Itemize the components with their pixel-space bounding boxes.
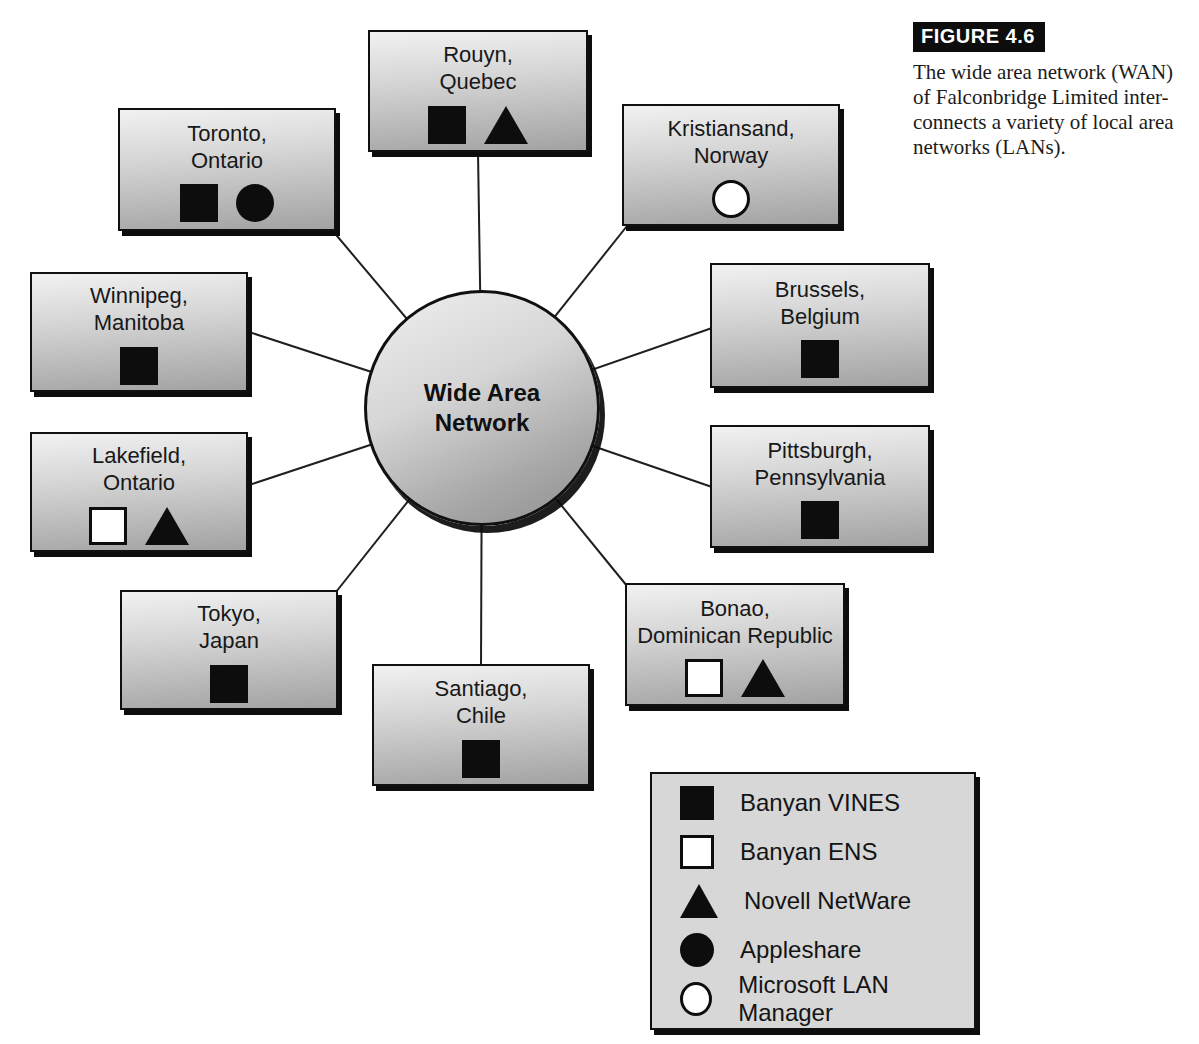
wan-hub-label: Wide Area Network bbox=[424, 378, 540, 438]
legend-item-banyan-ens: Banyan ENS bbox=[680, 833, 974, 871]
lan-node-winnipeg: Winnipeg, Manitoba bbox=[30, 272, 248, 392]
lan-node-tokyo: Tokyo, Japan bbox=[120, 590, 338, 710]
lan-node-label: Bonao, Dominican Republic bbox=[637, 596, 833, 650]
lan-node-santiago: Santiago, Chile bbox=[372, 664, 590, 786]
novell-netware-icon bbox=[741, 659, 785, 697]
lan-node-label: Lakefield, Ontario bbox=[92, 443, 186, 497]
lan-node-symbols bbox=[428, 104, 528, 144]
figure-4-6-diagram: Wide Area Network Rouyn, Quebec Toronto,… bbox=[0, 0, 1199, 1044]
banyan-vines-icon bbox=[462, 740, 500, 778]
lan-node-bonao: Bonao, Dominican Republic bbox=[625, 583, 845, 706]
legend-label: Appleshare bbox=[740, 936, 861, 964]
legend: Banyan VINES Banyan ENS Novell NetWare A… bbox=[650, 772, 976, 1030]
lan-node-label: Toronto, Ontario bbox=[187, 121, 267, 175]
banyan-ens-icon bbox=[680, 835, 714, 869]
banyan-ens-icon bbox=[89, 507, 127, 545]
lan-node-label: Pittsburgh, Pennsylvania bbox=[755, 438, 886, 492]
legend-item-banyan-vines: Banyan VINES bbox=[680, 784, 974, 822]
lan-node-rouyn: Rouyn, Quebec bbox=[368, 30, 588, 152]
figure-caption: FIGURE 4.6 The wide area network (WAN) o… bbox=[913, 22, 1199, 160]
lan-node-label: Santiago, Chile bbox=[435, 676, 528, 730]
lan-node-brussels: Brussels, Belgium bbox=[710, 263, 930, 388]
figure-caption-text: The wide area network (WAN) of Falconbri… bbox=[913, 60, 1199, 160]
lan-node-label: Tokyo, Japan bbox=[197, 601, 261, 655]
figure-label: FIGURE 4.6 bbox=[913, 22, 1045, 52]
novell-netware-icon bbox=[145, 507, 189, 545]
lan-node-symbols bbox=[210, 663, 248, 703]
lan-node-symbols bbox=[89, 505, 189, 545]
banyan-vines-icon bbox=[180, 184, 218, 222]
lan-node-symbols bbox=[712, 178, 750, 218]
banyan-vines-icon bbox=[801, 501, 839, 539]
legend-label: Banyan ENS bbox=[740, 838, 877, 866]
novell-netware-icon bbox=[484, 106, 528, 144]
legend-item-appleshare: Appleshare bbox=[680, 931, 974, 969]
lan-node-symbols bbox=[685, 657, 785, 697]
appleshare-icon bbox=[236, 184, 274, 222]
legend-label: Banyan VINES bbox=[740, 789, 900, 817]
lan-node-toronto: Toronto, Ontario bbox=[118, 108, 336, 231]
novell-netware-icon bbox=[680, 884, 718, 918]
lan-node-lakefield: Lakefield, Ontario bbox=[30, 432, 248, 552]
banyan-vines-icon bbox=[801, 340, 839, 378]
lan-node-pittsburgh: Pittsburgh, Pennsylvania bbox=[710, 425, 930, 548]
legend-label: Novell NetWare bbox=[744, 887, 911, 915]
lan-node-symbols bbox=[120, 345, 158, 385]
wan-hub-circle: Wide Area Network bbox=[364, 290, 600, 526]
lan-node-label: Winnipeg, Manitoba bbox=[90, 283, 188, 337]
lan-node-kristiansand: Kristiansand, Norway bbox=[622, 104, 840, 226]
lan-node-symbols bbox=[801, 338, 839, 378]
legend-item-novell-netware: Novell NetWare bbox=[680, 882, 974, 920]
lan-node-label: Rouyn, Quebec bbox=[439, 42, 516, 96]
microsoft-lan-manager-icon bbox=[680, 982, 712, 1016]
banyan-ens-icon bbox=[685, 659, 723, 697]
lan-node-label: Brussels, Belgium bbox=[775, 277, 865, 331]
lan-node-symbols bbox=[180, 182, 274, 222]
lan-node-symbols bbox=[801, 499, 839, 539]
banyan-vines-icon bbox=[120, 347, 158, 385]
legend-label: Microsoft LAN Manager bbox=[738, 971, 974, 1027]
legend-item-microsoft-lan-manager: Microsoft LAN Manager bbox=[680, 980, 974, 1018]
banyan-vines-icon bbox=[428, 106, 466, 144]
appleshare-icon bbox=[680, 933, 714, 967]
microsoft-lan-manager-icon bbox=[712, 180, 750, 218]
lan-node-symbols bbox=[462, 738, 500, 778]
lan-node-label: Kristiansand, Norway bbox=[667, 116, 794, 170]
banyan-vines-icon bbox=[210, 665, 248, 703]
banyan-vines-icon bbox=[680, 786, 714, 820]
